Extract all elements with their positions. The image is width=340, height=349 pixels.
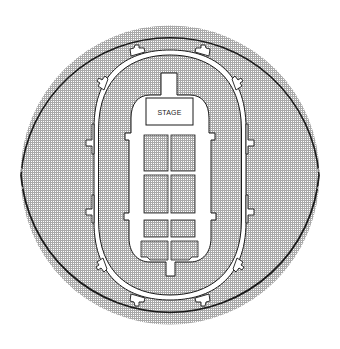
floor-section-b1[interactable]: [144, 175, 168, 213]
floor-section-a1[interactable]: [144, 135, 168, 171]
floor-section-a2[interactable]: [171, 135, 195, 171]
stage-label: STAGE: [157, 109, 181, 116]
floor-section-d1[interactable]: [141, 241, 168, 260]
stage[interactable]: STAGE: [146, 98, 193, 125]
floor-section-c2[interactable]: [171, 220, 195, 237]
floor-section-d2[interactable]: [171, 241, 198, 260]
floor-section-c1[interactable]: [144, 220, 168, 237]
venue-seating-map: STAGE: [0, 0, 340, 349]
floor-section-b2[interactable]: [171, 175, 195, 213]
